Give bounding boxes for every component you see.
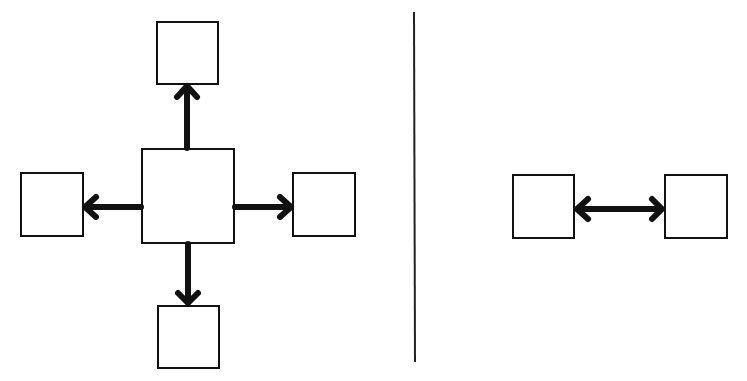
node-left	[21, 173, 83, 236]
node-right	[293, 173, 355, 236]
node-a	[513, 175, 574, 238]
node-top	[157, 22, 218, 84]
hub-and-spoke-diagram	[21, 22, 355, 368]
node-b	[665, 175, 727, 238]
arrow-up-icon	[177, 86, 197, 148]
node-bottom	[158, 306, 219, 368]
arrow-down-icon	[178, 244, 198, 303]
double-arrow-icon	[577, 199, 662, 219]
panel-divider	[414, 12, 415, 362]
diagram-canvas	[0, 0, 747, 381]
arrow-left-icon	[85, 197, 141, 217]
hub-box	[142, 149, 234, 243]
arrow-right-icon	[235, 197, 291, 217]
